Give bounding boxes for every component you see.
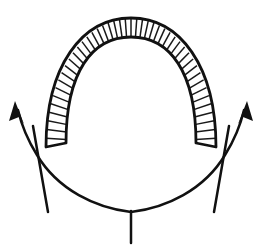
arrowhead-right-icon	[238, 101, 253, 124]
arrowhead-left-icon	[9, 101, 24, 124]
u-curve-right-branch	[131, 110, 244, 212]
hatched-arch-band	[46, 18, 216, 147]
figure-canvas	[0, 0, 262, 251]
diagram-svg	[0, 0, 262, 251]
u-curve-left-branch	[18, 110, 131, 212]
